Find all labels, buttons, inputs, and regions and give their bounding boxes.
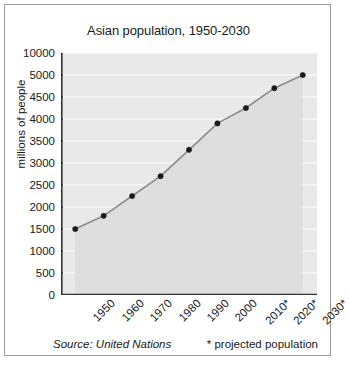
projection-note: * projected population xyxy=(207,338,318,350)
chart-figure: Asian population, 1950-2030 millions of … xyxy=(4,4,331,356)
y-tick-label: 3500 xyxy=(11,135,55,147)
data-point-marker xyxy=(215,121,220,126)
x-tick-label: 1960 xyxy=(119,297,146,324)
y-tick-label: 500 xyxy=(11,267,55,279)
y-tick-label: 1000 xyxy=(11,245,55,257)
chart-title: Asian population, 1950-2030 xyxy=(5,23,332,38)
data-point-marker xyxy=(73,226,78,231)
y-tick-label: 10000 xyxy=(11,47,55,59)
y-tick-label: 3000 xyxy=(11,157,55,169)
data-point-marker xyxy=(186,147,191,152)
y-tick-label: 2500 xyxy=(11,179,55,191)
x-tick-label: 2030* xyxy=(320,297,349,327)
x-tick-label: 2000 xyxy=(233,297,260,324)
data-point-marker xyxy=(300,72,305,77)
y-tick-label: 4500 xyxy=(11,91,55,103)
y-tick-label: 0 xyxy=(11,289,55,301)
source-note: Source: United Nations xyxy=(53,338,171,350)
chart-canvas xyxy=(61,53,317,295)
y-axis-tick-labels: 1000050004500400035003000250020001500100… xyxy=(7,53,55,295)
x-axis-tick-labels: 1950196019701980199020002010*2020*2030* xyxy=(61,297,317,341)
y-tick-label: 2000 xyxy=(11,201,55,213)
x-tick-label: 1970 xyxy=(148,297,175,324)
data-point-marker xyxy=(243,105,248,110)
x-tick-label: 2010* xyxy=(263,297,293,327)
data-point-marker xyxy=(101,213,106,218)
plot-area xyxy=(61,53,317,295)
data-point-marker xyxy=(158,174,163,179)
data-point-marker xyxy=(272,86,277,91)
x-tick-label: 2020* xyxy=(291,297,321,327)
x-tick-label: 1950 xyxy=(91,297,118,324)
data-point-marker xyxy=(130,193,135,198)
y-tick-label: 4000 xyxy=(11,113,55,125)
y-tick-label: 5000 xyxy=(11,69,55,81)
y-tick-label: 1500 xyxy=(11,223,55,235)
x-tick-label: 1990 xyxy=(204,297,231,324)
x-tick-label: 1980 xyxy=(176,297,203,324)
